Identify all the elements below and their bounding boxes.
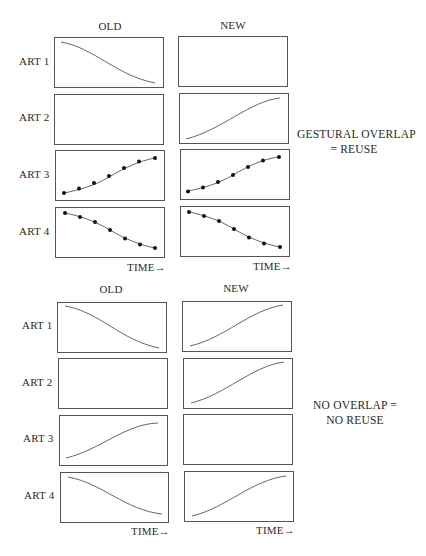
lower-new-art3-box: [184, 415, 293, 465]
lower-new-art1-curve: [190, 305, 283, 346]
lower-new-art4-box: [185, 472, 294, 522]
upper-new-art2-curve: [186, 98, 280, 139]
lower-new-art4-curve: [192, 476, 286, 516]
gesture-diagram: [0, 0, 426, 556]
lower-new-art2-curve: [191, 362, 284, 403]
upper-old-art4-points: [63, 211, 157, 250]
upper-old-art1-curve: [61, 42, 155, 83]
upper-new-art1-box: [179, 37, 288, 87]
upper-new-art3-box: [181, 150, 290, 200]
upper-new-art4-points: [187, 210, 282, 249]
lower-old-art2-box: [59, 359, 168, 409]
upper-old-art1-box: [55, 38, 164, 88]
lower-old-art4-curve: [68, 477, 162, 514]
lower-old-art1-curve: [65, 306, 159, 348]
upper-old-art2-box: [55, 95, 164, 145]
lower-old-art3-box: [60, 416, 168, 466]
upper-old-art3-points: [62, 156, 157, 195]
lower-old-art3-curve: [66, 423, 158, 458]
lower-new-art2-box: [184, 359, 293, 409]
lower-old-art4-box: [61, 473, 169, 523]
